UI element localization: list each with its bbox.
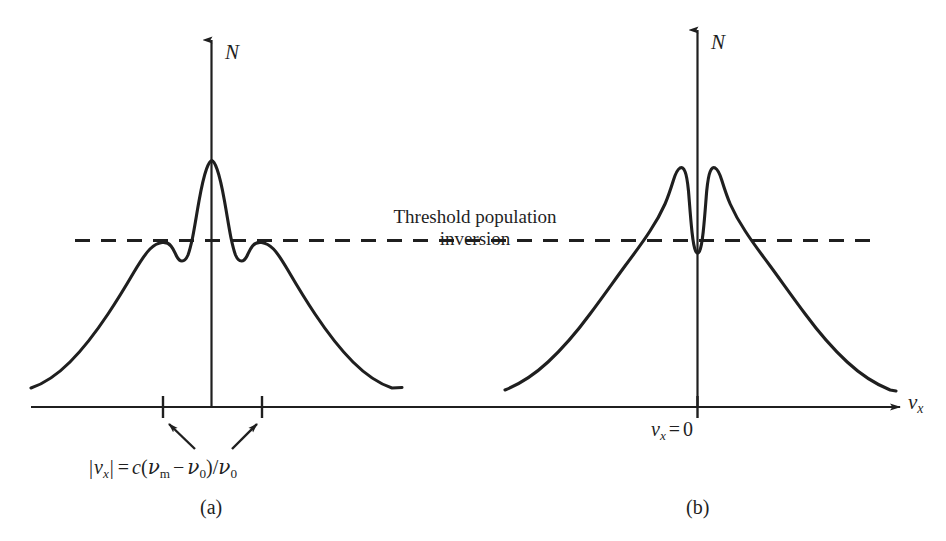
panel-a-curve bbox=[31, 161, 402, 389]
formula-nu-zero-b-sub: 0 bbox=[231, 466, 238, 481]
x-axis-label: vx bbox=[908, 390, 923, 417]
formula-equals: = bbox=[115, 456, 132, 478]
formula-speed-of-light: c bbox=[132, 456, 141, 478]
formula-velocity-sub: x bbox=[103, 466, 109, 481]
formula-bar-close: | bbox=[109, 456, 115, 478]
origin-label-value: 0 bbox=[683, 418, 693, 440]
hole-burning-formula: |vx|=c(νm−ν0)/ν0 bbox=[88, 456, 237, 481]
panel-a-caption: (a) bbox=[200, 496, 222, 519]
origin-label-var: v bbox=[651, 418, 660, 440]
threshold-label-line1: Threshold population bbox=[345, 206, 605, 228]
pointer-arrow-right bbox=[232, 424, 257, 449]
formula-nu-zero-b: ν bbox=[218, 455, 230, 479]
formula-nu-zero-a: ν bbox=[187, 455, 199, 479]
formula-minus: − bbox=[170, 456, 187, 478]
panel-a-y-axis-label: N bbox=[225, 40, 239, 64]
x-axis-label-var: v bbox=[908, 390, 917, 414]
formula-nu-m-sub: m bbox=[160, 466, 170, 481]
formula-velocity-var: v bbox=[94, 456, 103, 478]
formula-paren-close: ) bbox=[206, 456, 213, 478]
threshold-label-line2: inversion bbox=[345, 228, 605, 250]
x-axis-label-sub: x bbox=[917, 401, 923, 416]
panel-b-curve bbox=[505, 168, 896, 391]
figure-container: N N vx Threshold population inversion |v… bbox=[0, 0, 946, 541]
panel-b-y-axis-label: N bbox=[711, 30, 725, 54]
origin-label-equals: = bbox=[666, 418, 683, 440]
origin-label: vx=0 bbox=[651, 418, 693, 443]
threshold-label: Threshold population inversion bbox=[345, 206, 605, 250]
formula-nu-m: ν bbox=[148, 455, 160, 479]
panel-b-caption: (b) bbox=[686, 496, 709, 519]
pointer-arrow-left bbox=[169, 424, 195, 449]
origin-label-sub: x bbox=[660, 428, 666, 443]
formula-paren-open: ( bbox=[141, 456, 148, 478]
